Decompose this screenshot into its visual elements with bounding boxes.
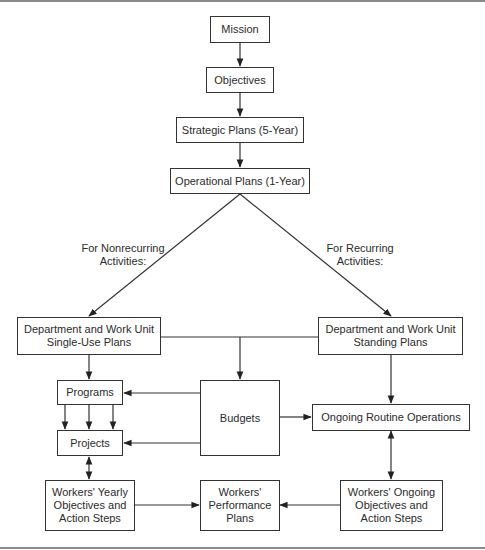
node-objectives: Objectives (206, 67, 274, 93)
node-strategic-plans: Strategic Plans (5-Year) (176, 117, 304, 143)
node-budgets: Budgets (200, 380, 280, 456)
node-workers-yearly: Workers' Yearly Objectives and Action St… (45, 480, 135, 531)
node-operational-plans: Operational Plans (1-Year) (170, 168, 310, 194)
node-workers-performance: Workers' Performance Plans (200, 480, 280, 531)
node-routine-operations: Ongoing Routine Operations (312, 404, 470, 431)
node-single-use-plans: Department and Work Unit Single-Use Plan… (17, 317, 161, 355)
node-projects: Projects (57, 430, 123, 456)
label-recurring: For Recurring Activities: (310, 242, 410, 268)
node-mission: Mission (210, 16, 270, 43)
node-workers-ongoing: Workers' Ongoing Objectives and Action S… (340, 480, 443, 531)
node-programs: Programs (57, 380, 123, 405)
node-standing-plans: Department and Work Unit Standing Plans (318, 317, 463, 355)
label-nonrecurring: For Nonrecurring Activities: (68, 242, 178, 268)
